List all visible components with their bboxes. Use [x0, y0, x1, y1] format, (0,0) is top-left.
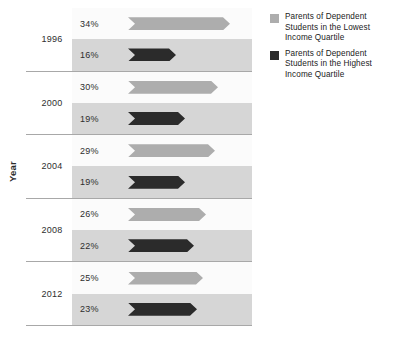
year-group: 200030%19% — [26, 72, 252, 136]
bar-row: 26% — [72, 199, 252, 230]
year-group-rows: 29%19% — [72, 135, 252, 198]
bar-track — [128, 39, 248, 70]
legend-swatch-icon — [270, 14, 279, 23]
bar-chart: Year 199634%16%200030%19%200429%19%20082… — [0, 0, 399, 342]
bar-value-label: 25% — [80, 273, 99, 283]
bar-value-label: 19% — [80, 177, 99, 187]
chart-legend: Parents of Dependent Students in the Low… — [270, 12, 396, 85]
bar-highest — [128, 176, 185, 189]
bar-track — [128, 166, 248, 197]
year-group: 199634%16% — [26, 8, 252, 72]
bar-highest — [128, 239, 194, 252]
bar-row: 16% — [72, 39, 252, 70]
bar-lowest — [128, 208, 206, 221]
year-group-rows: 26%22% — [72, 199, 252, 262]
bar-lowest — [128, 144, 215, 157]
bar-lowest — [128, 17, 230, 30]
bar-row: 25% — [72, 262, 252, 293]
bar-lowest — [128, 81, 218, 94]
bar-track — [128, 199, 248, 230]
bar-track — [128, 230, 248, 261]
bar-row: 19% — [72, 166, 252, 197]
legend-item-label: Parents of Dependent Students in the Low… — [285, 12, 396, 44]
year-label: 2012 — [32, 262, 72, 325]
bar-value-label: 34% — [80, 19, 99, 29]
bar-row: 30% — [72, 72, 252, 103]
bar-value-label: 19% — [80, 114, 99, 124]
bar-track — [128, 103, 248, 134]
bar-value-label: 30% — [80, 82, 99, 92]
bar-row: 34% — [72, 8, 252, 39]
bar-value-label: 16% — [80, 50, 99, 60]
legend-item[interactable]: Parents of Dependent Students in the Low… — [270, 12, 396, 44]
year-group-rows: 30%19% — [72, 72, 252, 135]
bar-value-label: 23% — [80, 304, 99, 314]
year-group-rows: 25%23% — [72, 262, 252, 325]
bar-row: 29% — [72, 135, 252, 166]
y-axis-title-label: Year — [6, 161, 17, 182]
legend-item[interactable]: Parents of Dependent Students in the Hig… — [270, 49, 396, 81]
bar-track — [128, 72, 248, 103]
bar-value-label: 22% — [80, 241, 99, 251]
bar-value-label: 29% — [80, 146, 99, 156]
year-label: 1996 — [32, 8, 72, 71]
plot-area: 199634%16%200030%19%200429%19%200826%22%… — [26, 8, 252, 334]
year-label: 2004 — [32, 135, 72, 198]
year-label: 2000 — [32, 72, 72, 135]
y-axis-title: Year — [0, 0, 24, 342]
bar-highest — [128, 112, 185, 125]
bar-track — [128, 135, 248, 166]
bar-track — [128, 294, 248, 325]
bar-track — [128, 8, 248, 39]
year-label: 2008 — [32, 199, 72, 262]
year-group: 200429%19% — [26, 135, 252, 199]
bar-row: 19% — [72, 103, 252, 134]
bar-value-label: 26% — [80, 209, 99, 219]
bar-highest — [128, 48, 176, 61]
legend-item-label: Parents of Dependent Students in the Hig… — [285, 49, 396, 81]
bar-track — [128, 262, 248, 293]
bar-lowest — [128, 272, 203, 285]
year-group: 201225%23% — [26, 262, 252, 326]
legend-swatch-icon — [270, 51, 279, 60]
year-group-rows: 34%16% — [72, 8, 252, 71]
bar-highest — [128, 303, 197, 316]
year-group: 200826%22% — [26, 199, 252, 263]
bar-row: 22% — [72, 230, 252, 261]
bar-row: 23% — [72, 294, 252, 325]
